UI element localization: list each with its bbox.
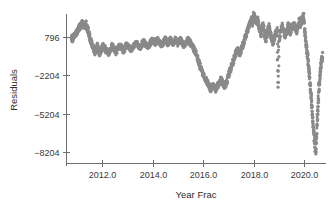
x-axis-title: Year Frac: [176, 189, 217, 200]
data-point: [316, 124, 319, 127]
data-point: [309, 84, 312, 87]
data-point: [196, 54, 199, 57]
data-point: [308, 68, 311, 71]
data-point: [262, 25, 265, 28]
data-point: [232, 61, 235, 64]
data-point: [304, 36, 307, 39]
data-point: [289, 31, 292, 34]
data-point: [320, 65, 323, 68]
x-tick-label: 2020.0: [291, 170, 319, 180]
data-point: [277, 45, 280, 48]
data-point: [315, 141, 318, 144]
data-point: [315, 151, 318, 154]
data-point: [247, 29, 250, 32]
data-point: [266, 35, 269, 38]
data-point: [304, 30, 307, 33]
data-point: [312, 129, 315, 132]
y-tick-label: −2204: [34, 71, 59, 81]
data-point: [277, 64, 280, 67]
data-point: [195, 49, 198, 52]
data-point: [287, 22, 290, 25]
data-point: [318, 88, 321, 91]
y-tick-label: −5204: [34, 110, 59, 120]
data-point: [308, 76, 311, 79]
data-point: [317, 98, 320, 101]
data-point: [305, 45, 308, 48]
data-point: [251, 24, 254, 27]
data-point: [276, 26, 279, 29]
data-point: [307, 59, 310, 62]
data-point: [311, 119, 314, 122]
data-point: [312, 126, 315, 129]
data-point: [90, 40, 93, 43]
data-point: [321, 56, 324, 59]
data-point: [318, 77, 321, 80]
plot-area: 796−2204−5204−8204 2012.02014.02016.0201…: [0, 0, 335, 207]
data-point: [257, 20, 260, 23]
data-point: [245, 35, 248, 38]
x-tick-label: 2014.0: [140, 170, 168, 180]
data-point: [315, 132, 318, 135]
data-point: [311, 110, 314, 113]
data-point: [85, 19, 88, 22]
y-tick-label: −8204: [34, 148, 59, 158]
data-point: [277, 49, 280, 52]
y-axis-title: Residuals: [8, 69, 19, 111]
x-tick-label: 2016.0: [190, 170, 218, 180]
data-point: [317, 105, 320, 108]
data-point: [316, 110, 319, 113]
data-point: [302, 12, 305, 15]
data-point: [306, 53, 309, 56]
data-point: [319, 70, 322, 73]
data-point: [315, 135, 318, 138]
x-tick-label: 2012.0: [89, 170, 117, 180]
data-point: [321, 51, 324, 54]
data-point: [277, 55, 280, 58]
data-point-group: [70, 11, 324, 156]
data-point: [314, 147, 317, 150]
data-point: [310, 94, 313, 97]
data-point: [310, 99, 313, 102]
data-point: [199, 62, 202, 65]
data-point: [87, 26, 90, 29]
data-point: [277, 75, 280, 78]
data-point: [308, 72, 311, 75]
data-point: [316, 118, 319, 121]
data-point: [281, 23, 284, 26]
x-tick-group: 2012.02014.02016.02018.02020.0: [89, 160, 319, 180]
data-point: [303, 27, 306, 30]
data-point: [202, 73, 205, 76]
data-point: [265, 40, 268, 43]
data-point: [277, 70, 280, 73]
data-point: [115, 52, 118, 55]
data-point: [311, 113, 314, 116]
data-point: [307, 65, 310, 68]
data-point: [276, 86, 279, 89]
data-point: [303, 21, 306, 24]
y-tick-label: 796: [44, 33, 59, 43]
x-tick-label: 2018.0: [241, 170, 269, 180]
data-point: [279, 35, 282, 38]
data-point: [311, 116, 314, 119]
data-point: [226, 80, 229, 83]
data-point: [310, 105, 313, 108]
y-tick-group: 796−2204−5204−8204: [34, 33, 70, 158]
data-point: [243, 41, 246, 44]
residuals-scatter-chart: 796−2204−5204−8204 2012.02014.02016.0201…: [0, 0, 335, 207]
data-point: [88, 32, 91, 35]
data-point: [277, 81, 280, 84]
